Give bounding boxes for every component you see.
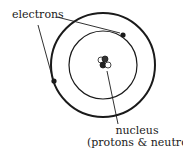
electrons-leader-1 bbox=[57, 17, 120, 33]
electrons-leader-2 bbox=[38, 25, 52, 76]
atom-diagram: electrons nucleus (protons & neutrons) bbox=[0, 0, 183, 163]
nucleus-detail-label: (protons & neutrons) bbox=[87, 137, 183, 149]
electron-inner bbox=[120, 32, 125, 37]
nucleus-icon bbox=[98, 56, 111, 68]
electrons-label: electrons bbox=[12, 9, 64, 21]
electron-outer bbox=[51, 78, 56, 83]
